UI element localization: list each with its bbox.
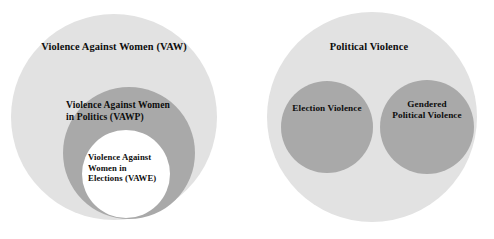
- label-election-violence: Election Violence: [284, 103, 370, 114]
- circle-election-violence: [281, 81, 373, 173]
- circle-gendered-political-violence: [380, 80, 474, 174]
- label-gendered-political-violence: Gendered Political Violence: [384, 99, 470, 121]
- label-political-violence: Political Violence: [296, 41, 442, 54]
- venn-diagram-figure: Violence Against Women (VAW) Violence Ag…: [0, 0, 494, 239]
- label-violence-against-women: Violence Against Women (VAW): [26, 41, 202, 54]
- label-violence-against-women-in-elections: Violence Against Women in Elections (VAW…: [88, 152, 168, 184]
- label-violence-against-women-in-politics: Violence Against Women in Politics (VAWP…: [66, 99, 190, 122]
